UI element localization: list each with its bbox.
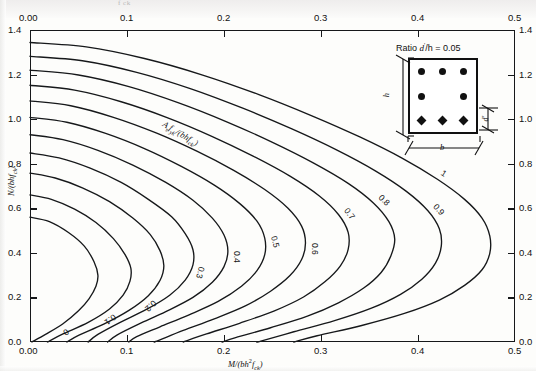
tick-left-y: [30, 297, 37, 298]
rebar-circle: [418, 93, 425, 100]
tick-label-left-2: 0.4: [8, 247, 21, 258]
tick-label-right-5: 1.0: [519, 113, 532, 124]
tick-right-y: [508, 208, 515, 209]
rebar-circle: [439, 68, 446, 75]
tick-label-top-0: 0.00: [19, 12, 38, 23]
tick-top-x: [418, 30, 419, 37]
tick-left-y: [30, 119, 37, 120]
tick-label-right-7: 1.4: [519, 24, 532, 35]
tick-label-bottom-2: 0.2: [217, 345, 230, 356]
curve-0.6: [30, 101, 305, 342]
tick-right-y: [508, 253, 515, 254]
tick-label-bottom-3: 0.3: [314, 345, 327, 356]
tick-label-bottom-4: 0.4: [411, 345, 424, 356]
tick-label-left-6: 1.2: [8, 69, 21, 80]
rebar-circle: [460, 93, 467, 100]
tick-label-right-4: 0.8: [519, 158, 532, 169]
x-axis-title: M/(bh2fck): [228, 357, 263, 371]
curve-label-0.4: 0.4: [232, 251, 242, 263]
cut-off-header-text: f ck: [118, 0, 131, 7]
tick-label-left-0: 0.0: [8, 336, 21, 347]
tick-label-left-7: 1.4: [8, 24, 21, 35]
tick-left-y: [30, 164, 37, 165]
tick-top-x: [321, 30, 322, 37]
tick-bottom-x: [418, 335, 419, 342]
tick-left-y: [30, 253, 37, 254]
curve-0.7: [30, 85, 349, 342]
tick-label-top-4: 0.4: [411, 12, 424, 23]
tick-label-left-5: 1.0: [8, 113, 21, 124]
tick-label-right-2: 0.4: [519, 247, 532, 258]
tick-label-right-0: 0.0: [519, 336, 532, 347]
rebar-circle: [418, 68, 425, 75]
dimension-h-label: h: [381, 93, 391, 97]
inset-caption-prefix: Ratio: [396, 43, 420, 53]
inset-caption-mid: /h =: [425, 43, 443, 53]
tick-label-bottom-0: 0.00: [19, 345, 38, 356]
rebar-diamond: [417, 116, 427, 126]
tick-bottom-x: [224, 335, 225, 342]
column-section-outline: [408, 58, 478, 134]
tick-label-bottom-1: 0.1: [120, 345, 133, 356]
tick-label-top-3: 0.3: [314, 12, 327, 23]
tick-bottom-x: [321, 335, 322, 342]
tick-left-y: [30, 208, 37, 209]
tick-label-left-3: 0.6: [8, 202, 21, 213]
tick-label-top-2: 0.2: [217, 12, 230, 23]
curve-0.8: [30, 70, 395, 342]
cross-section-inset: Ratio d′/h = 0.05 h: [382, 42, 512, 167]
dimension-b-label: b: [440, 142, 444, 152]
dimension-h: [392, 54, 414, 140]
rebar-diamond: [438, 116, 448, 126]
dimension-dprime-label: d′: [481, 116, 490, 122]
tick-label-right-3: 0.6: [519, 202, 532, 213]
tick-label-top-1: 0.1: [120, 12, 133, 23]
scanned-page: f ck 0.000.10.20.30.40.50.000.10.20.30.4…: [0, 0, 536, 371]
tick-right-y: [508, 297, 515, 298]
tick-top-x: [127, 30, 128, 37]
tick-label-top-5: 0.5: [508, 12, 521, 23]
rebar-circle: [460, 68, 467, 75]
tick-label-left-1: 0.2: [8, 291, 21, 302]
y-axis-title: N/(bhfck): [6, 166, 18, 196]
page-top-grain: [0, 0, 536, 18]
tick-label-right-1: 0.2: [519, 291, 532, 302]
inset-caption-value: 0.05: [443, 43, 461, 53]
curve-label-0.6: 0.6: [310, 243, 320, 255]
rebar-diamond: [459, 116, 469, 126]
page-bottom-shadow: [0, 366, 536, 371]
tick-bottom-x: [127, 335, 128, 342]
tick-left-y: [30, 75, 37, 76]
tick-label-right-6: 1.2: [519, 69, 532, 80]
curve-label-0.5: 0.5: [269, 235, 281, 249]
tick-top-x: [224, 30, 225, 37]
inset-caption: Ratio d′/h = 0.05: [396, 42, 460, 53]
